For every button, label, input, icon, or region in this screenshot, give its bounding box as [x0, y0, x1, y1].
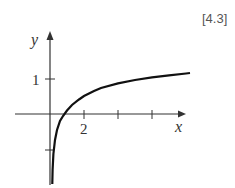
curve — [52, 73, 190, 184]
y-axis-arrow-icon — [47, 31, 54, 40]
y-tick-label: 1 — [32, 72, 40, 88]
y-axis-label: y — [29, 31, 39, 49]
x-axis-arrow-icon — [178, 111, 186, 118]
x-axis-label: x — [174, 118, 182, 135]
graph: y x 2 1 — [0, 0, 235, 188]
x-tick-label: 2 — [80, 121, 88, 137]
